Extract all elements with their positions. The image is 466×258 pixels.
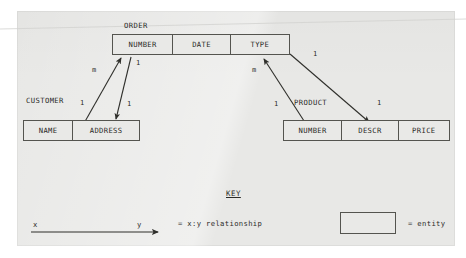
er-diagram-page: ORDER NUMBER DATE TYPE CUSTOMER NAME ADD… [0, 0, 466, 258]
cardinality-product-1: 1 [274, 100, 279, 108]
cardinality-customer-1: 1 [80, 99, 85, 107]
cardinality-descr-1: 1 [377, 99, 382, 107]
attribute-customer-address[interactable]: ADDRESS [73, 121, 139, 140]
attribute-product-price[interactable]: PRICE [399, 121, 449, 140]
attribute-customer-name[interactable]: NAME [24, 121, 73, 140]
entity-title-customer: CUSTOMER [26, 96, 64, 105]
attribute-order-number[interactable]: NUMBER [113, 35, 173, 54]
attribute-product-descr[interactable]: DESCR [342, 121, 398, 140]
entity-title-order: ORDER [124, 21, 148, 30]
cardinality-order-type-m: m [252, 66, 257, 74]
key-entity-sample-box [340, 212, 396, 234]
attribute-product-number[interactable]: NUMBER [284, 121, 342, 140]
key-arrow-to-label: y [137, 220, 141, 229]
key-arrow-from-label: x [33, 220, 37, 229]
cardinality-order-number-1: 1 [136, 59, 141, 67]
entity-order[interactable]: NUMBER DATE TYPE [112, 34, 290, 55]
entity-title-product: PRODUCT [294, 98, 327, 107]
attribute-order-type[interactable]: TYPE [231, 35, 289, 54]
cardinality-address-1: 1 [127, 100, 132, 108]
key-relationship-text: = x:y relationship [178, 219, 262, 228]
cardinality-order-number-m: m [92, 66, 97, 74]
attribute-order-date[interactable]: DATE [173, 35, 230, 54]
key-title: KEY [226, 189, 241, 198]
cardinality-order-type-1: 1 [313, 50, 318, 58]
entity-customer[interactable]: NAME ADDRESS [23, 120, 140, 141]
entity-product[interactable]: NUMBER DESCR PRICE [283, 120, 450, 141]
key-entity-text: = entity [408, 219, 445, 228]
